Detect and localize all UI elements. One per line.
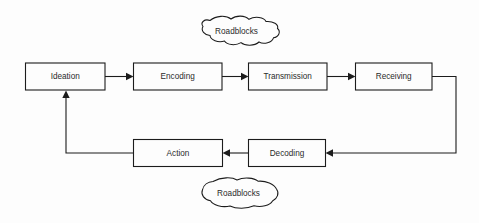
cloud-roadblocks-top[interactable]: Roadblocks xyxy=(202,16,279,45)
diagram-canvas: Ideation Encoding Transmission Receiving… xyxy=(0,0,479,223)
cloud-roadblocks-bottom-label: Roadblocks xyxy=(217,189,260,198)
node-receiving-label: Receiving xyxy=(376,72,412,81)
arrow-left-icon xyxy=(326,149,334,156)
connector-decoding-to-action xyxy=(223,149,249,156)
communication-process-diagram: Ideation Encoding Transmission Receiving… xyxy=(0,0,479,223)
node-ideation[interactable]: Ideation xyxy=(26,63,106,90)
node-action-label: Action xyxy=(167,149,190,158)
connector-action-to-ideation xyxy=(62,91,133,154)
node-decoding[interactable]: Decoding xyxy=(249,140,326,167)
arrow-left-icon xyxy=(223,149,231,156)
node-receiving[interactable]: Receiving xyxy=(356,63,433,90)
node-transmission[interactable]: Transmission xyxy=(249,63,328,90)
cloud-roadblocks-top-label: Roadblocks xyxy=(215,27,258,36)
node-encoding[interactable]: Encoding xyxy=(134,63,223,90)
cloud-roadblocks-bottom[interactable]: Roadblocks xyxy=(202,178,278,208)
arrow-up-icon xyxy=(62,91,69,99)
arrow-right-icon xyxy=(241,73,249,80)
node-ideation-label: Ideation xyxy=(51,72,81,81)
connector-ideation-to-encoding xyxy=(105,73,134,80)
connector-transmission-to-receiving xyxy=(327,73,356,80)
node-transmission-label: Transmission xyxy=(264,72,313,81)
connector-encoding-to-transmission xyxy=(222,73,249,80)
node-decoding-label: Decoding xyxy=(270,149,305,158)
arrow-right-icon xyxy=(126,73,134,80)
node-action[interactable]: Action xyxy=(134,140,223,167)
arrow-right-icon xyxy=(348,73,356,80)
node-encoding-label: Encoding xyxy=(161,72,196,81)
